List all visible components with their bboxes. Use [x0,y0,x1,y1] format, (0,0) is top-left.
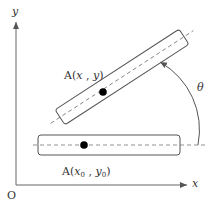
label-prefix: A( [64,69,76,82]
theta-label: θ [197,82,204,93]
label-separator: , [82,69,93,82]
rotated-point-dot [99,88,107,96]
rotation-diagram: y x O θ A(x , y) A(x0 , y0) [0,0,215,208]
initial-point-dot [80,141,88,149]
label-suffix: ) [106,165,110,178]
x-axis-label: x [192,178,198,189]
origin-label: O [7,190,16,201]
rotation-arc [160,62,199,145]
label-separator: , [85,165,96,178]
label-suffix: ) [99,69,103,82]
y-axis-label: y [12,6,18,17]
initial-body [38,135,180,155]
rotated-point-label: A(x , y) [64,70,103,81]
label-prefix: A( [62,165,74,178]
initial-point-label: A(x0 , y0) [62,166,110,179]
